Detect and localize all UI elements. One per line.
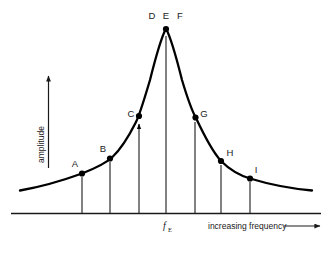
point-label-c: C — [128, 108, 135, 119]
marker-point-g — [192, 114, 198, 120]
point-label-e: E — [163, 10, 169, 21]
resonant-frequency-subscript: E — [168, 226, 172, 233]
marker-point-i — [247, 175, 253, 181]
x-axis-label: increasing frequency — [208, 221, 287, 231]
chart-svg: amplitude A B C D E F G H I f E increasi… — [0, 0, 332, 253]
resonance-curve-figure: amplitude A B C D E F G H I f E increasi… — [0, 0, 332, 253]
y-axis-label: amplitude — [36, 126, 46, 163]
marker-point-a — [79, 170, 85, 176]
marker-point-e — [163, 26, 169, 32]
point-label-d: D — [149, 10, 156, 21]
point-label-h: H — [227, 147, 234, 158]
point-label-i: I — [255, 164, 258, 175]
point-label-f: F — [177, 10, 183, 21]
point-label-g: G — [200, 108, 207, 119]
marker-point-b — [107, 155, 113, 161]
point-label-a: A — [72, 158, 79, 169]
marker-point-h — [218, 158, 224, 164]
point-label-b: B — [100, 143, 106, 154]
marker-point-c — [136, 113, 142, 119]
